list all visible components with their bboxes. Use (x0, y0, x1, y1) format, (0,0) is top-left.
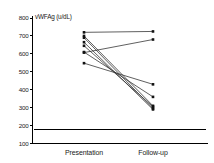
data-point-marker (152, 108, 155, 111)
data-point-marker (152, 38, 155, 41)
chart-container: 100200300400500600700800 PresentationFol… (0, 0, 214, 163)
data-point-marker (83, 51, 86, 54)
vwfag-paired-line-chart: 100200300400500600700800 PresentationFol… (0, 0, 214, 163)
y-tick-label: 400 (19, 86, 29, 93)
y-tick-label: 200 (19, 122, 29, 129)
data-point-marker (83, 31, 86, 34)
x-category-label-follow-up: Follow-up (138, 149, 168, 157)
y-tick-label: 500 (19, 68, 29, 75)
data-point-marker (152, 30, 155, 33)
y-tick-label: 800 (19, 14, 29, 21)
y-axis-title: vWFAg (u/dL) (35, 13, 72, 21)
y-tick-label: 700 (19, 32, 29, 39)
data-point-marker (83, 62, 86, 65)
data-point-marker (83, 41, 86, 44)
y-tick-label: 600 (19, 50, 29, 57)
data-point-marker (152, 105, 155, 108)
data-point-marker (83, 36, 86, 39)
y-tick-label: 100 (19, 140, 29, 147)
x-category-label-presentation: Presentation (65, 149, 103, 156)
y-tick-label: 300 (19, 104, 29, 111)
data-point-marker (83, 44, 86, 47)
data-point-marker (152, 83, 155, 86)
data-point-marker (152, 96, 155, 99)
